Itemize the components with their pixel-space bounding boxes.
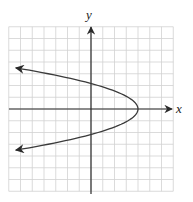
parabola-graph: x y bbox=[0, 0, 193, 202]
y-axis-label: y bbox=[84, 7, 92, 22]
x-axis-label: x bbox=[175, 101, 182, 116]
